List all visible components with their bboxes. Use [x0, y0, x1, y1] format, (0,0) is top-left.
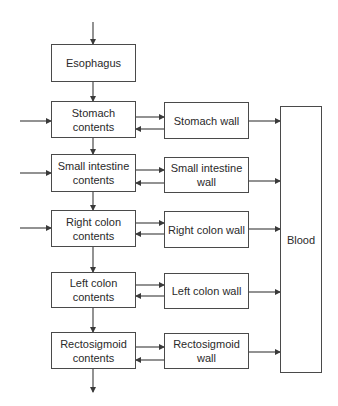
node-small-intestine-contents: Small intestine contents	[51, 154, 136, 192]
node-label: Rectosigmoid contents	[52, 337, 135, 365]
node-left-colon-wall: Left colon wall	[164, 273, 249, 309]
node-label: Esophagus	[66, 56, 121, 70]
node-rectosigmoid-wall: Rectosigmoid wall	[164, 333, 249, 369]
gi-tract-compartment-diagram: Esophagus Stomach contents Small intesti…	[0, 0, 338, 406]
node-label: Right colon wall	[168, 223, 245, 237]
node-small-intestine-wall: Small intestine wall	[164, 157, 249, 193]
node-stomach-wall: Stomach wall	[164, 102, 249, 139]
node-label: Blood	[287, 233, 315, 247]
node-esophagus: Esophagus	[51, 44, 136, 82]
node-label: Left colon wall	[172, 284, 242, 298]
node-label: Stomach contents	[52, 106, 135, 134]
node-label: Stomach wall	[174, 114, 239, 128]
node-label: Small intestine contents	[52, 159, 135, 187]
node-rectosigmoid-contents: Rectosigmoid contents	[51, 332, 136, 369]
node-right-colon-contents: Right colon contents	[51, 210, 136, 247]
node-stomach-contents: Stomach contents	[51, 101, 136, 138]
node-right-colon-wall: Right colon wall	[164, 211, 249, 248]
node-label: Right colon contents	[52, 215, 135, 243]
node-label: Rectosigmoid wall	[165, 337, 248, 365]
node-blood: Blood	[280, 106, 322, 373]
node-label: Left colon contents	[52, 276, 135, 304]
node-label: Small intestine wall	[165, 161, 248, 189]
node-left-colon-contents: Left colon contents	[51, 272, 136, 308]
